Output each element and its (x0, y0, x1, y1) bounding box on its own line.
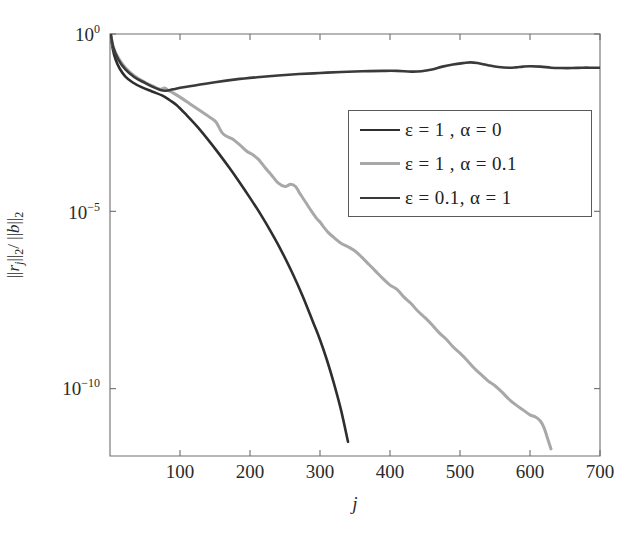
legend-box: ε = 1 , α = 0 ε = 1 , α = 0.1 ε = 0.1, α… (348, 110, 592, 217)
ytick-label-1e-10: 10−10 (26, 379, 100, 398)
y-label-mid: || (4, 255, 23, 262)
curve-eps-1-alpha-0p1 (111, 34, 551, 449)
legend-swatch-0 (360, 129, 400, 131)
xtick-label-100: 100 (166, 462, 195, 481)
axes-frame (110, 34, 600, 456)
legend-item-2[interactable]: ε = 0.1, α = 1 (349, 181, 591, 214)
y-label-open: || (4, 272, 23, 279)
legend-swatch-1 (360, 162, 400, 165)
xtick-label-400: 400 (376, 462, 405, 481)
legend-label-1: ε = 1 , α = 0.1 (405, 153, 517, 175)
y-label-r: r (4, 265, 23, 272)
y-label-close-sub: 2 (12, 212, 26, 218)
xtick-label-200: 200 (236, 462, 265, 481)
data-curves (111, 34, 600, 449)
y-label-mid-sub: 2 (12, 249, 26, 255)
xtick-label-500: 500 (446, 462, 475, 481)
xtick-label-700: 700 (586, 462, 615, 481)
y-axis-label: ||rj||2/ ||b||2 (4, 212, 24, 279)
xtick-label-300: 300 (306, 462, 335, 481)
legend-item-1[interactable]: ε = 1 , α = 0.1 (349, 147, 591, 180)
figure-container: 100 10−5 10−10 100 200 300 400 500 600 7… (0, 0, 634, 540)
xtick-label-600: 600 (516, 462, 545, 481)
plot-frame (110, 34, 600, 456)
legend-label-2: ε = 0.1, α = 1 (405, 187, 512, 209)
curve-eps-1-alpha-0 (111, 34, 348, 442)
legend-swatch-2 (360, 197, 400, 199)
residual-convergence-chart (0, 0, 634, 540)
tick-marks (110, 34, 600, 456)
y-label-r-sub: j (12, 262, 26, 265)
caption-strip (0, 521, 634, 540)
legend-label-0: ε = 1 , α = 0 (405, 119, 502, 141)
y-label-close: || (4, 218, 23, 225)
ytick-label-1e0: 100 (38, 25, 100, 44)
y-label-slash: / || (4, 233, 23, 249)
x-axis-label: j (352, 493, 357, 515)
curve-eps-0p1-alpha-1 (111, 34, 600, 91)
ytick-label-1e-5: 10−5 (32, 203, 100, 222)
legend-item-0[interactable]: ε = 1 , α = 0 (349, 113, 591, 146)
y-label-b: b (4, 224, 23, 233)
